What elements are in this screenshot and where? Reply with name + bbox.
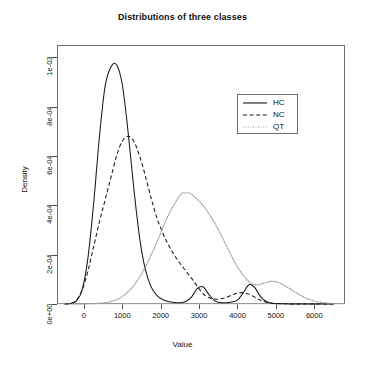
density-curve-qt xyxy=(65,193,338,304)
legend-key-dotted xyxy=(242,122,268,132)
density-curves xyxy=(57,45,345,304)
legend-key-dashed xyxy=(242,110,268,120)
y-tick-label: 1e-03 xyxy=(45,57,54,97)
x-axis-title: Value xyxy=(0,340,365,349)
x-tick xyxy=(161,304,162,309)
x-tick xyxy=(84,304,85,309)
y-tick-label: 8e-04 xyxy=(45,106,54,146)
x-tick xyxy=(276,304,277,309)
y-tick-label: 6e-04 xyxy=(45,156,54,196)
legend-label-nc: NC xyxy=(273,110,285,120)
y-tick-label: 4e-04 xyxy=(45,205,54,245)
x-tick xyxy=(237,304,238,309)
legend: HC NC QT xyxy=(237,94,298,134)
x-tick-label: 4000 xyxy=(217,311,257,320)
legend-label-qt: QT xyxy=(273,122,284,132)
x-tick-label: 6000 xyxy=(294,311,334,320)
legend-item-qt: QT xyxy=(242,121,284,133)
chart-title: Distributions of three classes xyxy=(0,12,365,22)
density-plot: Distributions of three classes 010002000… xyxy=(0,0,365,368)
y-tick-label: 0e+00 xyxy=(45,304,54,344)
legend-item-nc: NC xyxy=(242,109,285,121)
x-tick xyxy=(199,304,200,309)
legend-key-solid xyxy=(242,98,268,108)
x-tick-label: 1000 xyxy=(102,311,142,320)
y-axis-title: Density xyxy=(20,150,29,210)
legend-item-hc: HC xyxy=(242,97,285,109)
x-tick-label: 0 xyxy=(64,311,104,320)
x-tick xyxy=(314,304,315,309)
x-tick-label: 5000 xyxy=(256,311,296,320)
legend-label-hc: HC xyxy=(273,98,285,108)
y-tick-label: 2e-04 xyxy=(45,254,54,294)
density-curve-nc xyxy=(65,136,334,304)
x-tick xyxy=(122,304,123,309)
x-tick-label: 3000 xyxy=(179,311,219,320)
x-tick-label: 2000 xyxy=(141,311,181,320)
